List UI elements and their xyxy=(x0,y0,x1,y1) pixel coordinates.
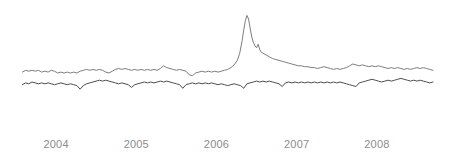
chart-plot-area xyxy=(0,0,452,164)
upper-series-line xyxy=(22,15,433,75)
lower-series-line xyxy=(22,78,433,89)
sparkline-chart: 20042005200620072008 xyxy=(0,0,452,164)
